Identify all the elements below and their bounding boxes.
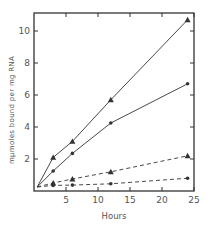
- y-tick-label: 2: [24, 154, 30, 164]
- triangle-marker: [185, 17, 191, 22]
- circle-marker: [71, 152, 75, 156]
- y-tick-label: 6: [24, 90, 30, 100]
- x-tick-label: 15: [124, 195, 135, 205]
- series-line: [37, 178, 187, 187]
- plot-border: [34, 13, 194, 191]
- series-dashed-triangles: [37, 153, 190, 187]
- circle-marker: [51, 169, 55, 173]
- circle-marker: [186, 82, 190, 86]
- series-solid-triangles: [37, 17, 190, 187]
- x-tick-label: 25: [188, 195, 199, 205]
- x-tick-label: 5: [63, 195, 69, 205]
- x-axis-title: Hours: [102, 211, 127, 221]
- y-tick-label: 10: [19, 26, 31, 36]
- circle-marker: [186, 176, 190, 180]
- axis-ticks: 510152025246810: [19, 13, 200, 205]
- triangle-marker: [185, 153, 191, 158]
- line-chart: 510152025246810 Hours mμmoles bound per …: [0, 0, 211, 230]
- plot-frame: [34, 13, 194, 191]
- series-line: [37, 156, 187, 187]
- data-series: [37, 17, 190, 187]
- y-axis-title: mμmoles bound per mg RNA: [8, 56, 16, 164]
- circle-marker: [71, 183, 75, 187]
- y-tick-label: 4: [24, 122, 30, 132]
- x-tick-label: 20: [156, 195, 168, 205]
- circle-marker: [109, 121, 113, 125]
- y-tick-label: 8: [24, 58, 30, 68]
- circle-marker: [51, 184, 55, 188]
- x-tick-label: 10: [92, 195, 104, 205]
- circle-marker: [109, 182, 113, 186]
- series-line: [37, 84, 187, 187]
- series-line: [37, 20, 187, 187]
